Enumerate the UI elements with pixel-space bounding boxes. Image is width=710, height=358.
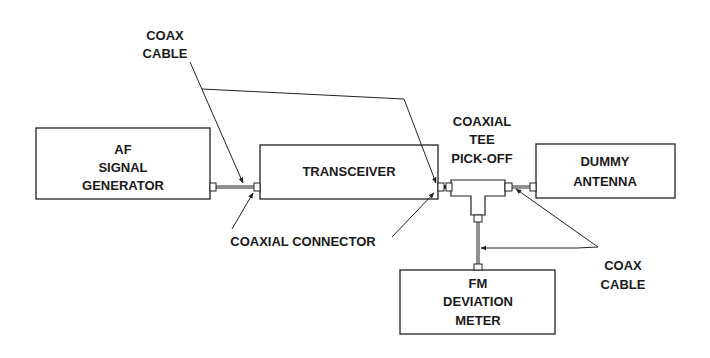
coaxial-tee <box>451 180 505 215</box>
dummy-antenna-block: DUMMY ANTENNA <box>536 144 675 198</box>
deviation-label: DEVIATION <box>443 294 513 309</box>
svg-text:COAX: COAX <box>146 28 184 43</box>
antenna-label: ANTENNA <box>573 174 637 189</box>
meter-label: METER <box>455 313 501 328</box>
fm-label: FM <box>469 276 488 291</box>
transceiver-block: TRANSCEIVER <box>260 145 438 199</box>
generator-label: GENERATOR <box>82 178 164 193</box>
svg-text:TEE: TEE <box>469 132 495 147</box>
svg-text:PICK-OFF: PICK-OFF <box>451 151 512 166</box>
fm-deviation-meter-block: FM DEVIATION METER <box>400 270 555 334</box>
transceiver-label: TRANSCEIVER <box>302 164 396 179</box>
svg-text:CABLE: CABLE <box>601 277 646 292</box>
test-setup-diagram: AF SIGNAL GENERATOR TRANSCEIVER DUMMY AN… <box>0 0 710 358</box>
coaxial-tee-label: COAXIAL TEE PICK-OFF <box>451 114 512 166</box>
af-signal-generator-block: AF SIGNAL GENERATOR <box>36 128 210 199</box>
dummy-label: DUMMY <box>580 154 629 169</box>
svg-text:COAXIAL: COAXIAL <box>453 114 512 129</box>
signal-label: SIGNAL <box>98 160 147 175</box>
svg-text:COAXIAL CONNECTOR: COAXIAL CONNECTOR <box>230 234 376 249</box>
svg-text:CABLE: CABLE <box>143 46 188 61</box>
coaxial-connector-label: COAXIAL CONNECTOR <box>230 193 434 249</box>
svg-text:COAX: COAX <box>604 258 642 273</box>
af-label: AF <box>114 142 131 157</box>
